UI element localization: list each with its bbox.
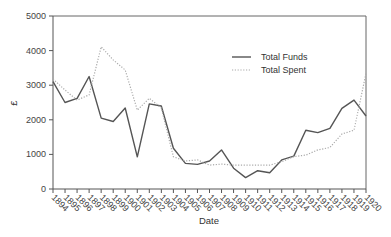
- series-layer: [53, 47, 366, 178]
- line-chart: 010002000300040005000 189418951896189718…: [0, 0, 391, 237]
- legend-label-total-funds: Total Funds: [261, 52, 308, 62]
- x-axis: 1894189518961897189818991900190119021903…: [50, 189, 384, 214]
- x-axis-title: Date: [199, 215, 219, 226]
- series-total-funds: [53, 77, 366, 178]
- legend-label-total-spent: Total Spent: [261, 65, 307, 75]
- y-axis-title: £: [8, 100, 19, 106]
- y-axis: 010002000300040005000: [26, 11, 53, 194]
- y-tick-label: 2000: [26, 115, 46, 125]
- y-tick-label: 1000: [26, 149, 46, 159]
- y-tick-label: 3000: [26, 80, 46, 90]
- y-tick-label: 5000: [26, 11, 46, 21]
- plot-border: [53, 16, 366, 189]
- y-tick-label: 0: [41, 184, 46, 194]
- series-total-spent: [53, 47, 366, 165]
- plot-frame: [53, 16, 366, 189]
- y-tick-label: 4000: [26, 46, 46, 56]
- legend: Total Funds Total Spent: [232, 52, 308, 75]
